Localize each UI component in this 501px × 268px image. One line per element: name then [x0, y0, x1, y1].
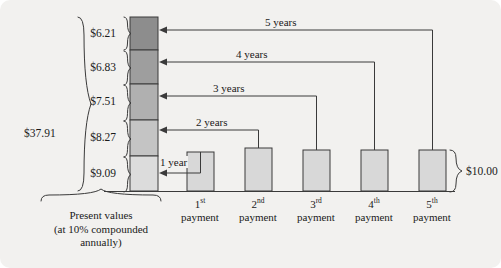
payment-ordinal-suffix-2: nd — [257, 196, 265, 205]
payment-bar-4 — [361, 150, 388, 191]
present-values-caption: Present values (at 10% compounded annual… — [1, 209, 201, 250]
payment-bar-3 — [303, 150, 330, 191]
years-label-1: 1 year — [159, 156, 188, 168]
pv-amount-5years: $6.21 — [64, 27, 116, 39]
arrowhead-1year — [159, 170, 167, 177]
arrowhead-2years — [159, 127, 167, 134]
connector-5years — [166, 30, 433, 150]
pv-segment-1year — [130, 156, 158, 191]
connector-2years — [166, 130, 259, 148]
payment-word-4: payment — [344, 211, 404, 223]
payment-ordinal-5: 5th — [402, 196, 462, 210]
caption-line-2: (at 10% compounded — [1, 223, 201, 237]
brace-ten-dollars — [450, 150, 462, 192]
years-label-4: 4 years — [236, 48, 267, 60]
connector-4years — [166, 62, 375, 150]
payment-ordinal-suffix-3: rd — [316, 196, 322, 205]
pv-segment-5years — [130, 17, 158, 50]
present-value-diagram: $37.91 $6.21 $6.83 $7.51 $8.27 $9.09 5 y… — [0, 0, 501, 268]
payment-ordinal-2: 2nd — [228, 196, 288, 210]
connector-3years — [166, 96, 317, 150]
pv-amount-1year: $9.09 — [64, 167, 116, 179]
payment-bar-5 — [419, 150, 446, 191]
payment-word-3: payment — [286, 211, 346, 223]
payment-ordinal-4: 4th — [344, 196, 404, 210]
payment-ordinal-3: 3rd — [286, 196, 346, 210]
present-value-bar — [130, 17, 158, 191]
payment-ordinal-suffix-4: th — [374, 196, 380, 205]
caption-line-3: annually) — [1, 236, 201, 250]
payment-bars — [187, 148, 446, 191]
arrowhead-3years — [159, 93, 167, 100]
payment-word-2: payment — [228, 211, 288, 223]
payment-ordinal-suffix-5: th — [432, 196, 438, 205]
arrowhead-5years — [159, 27, 167, 34]
pv-amount-3years: $7.51 — [64, 95, 116, 107]
years-label-3: 3 years — [213, 82, 244, 94]
arrowhead-4years — [159, 59, 167, 66]
payment-word-5: payment — [402, 211, 462, 223]
discount-connectors — [159, 27, 433, 177]
pv-segment-3years — [130, 84, 158, 120]
payment-ordinal-suffix-1: st — [200, 196, 205, 205]
pv-segment-2years — [130, 120, 158, 156]
payment-amount-label: $10.00 — [466, 165, 498, 177]
payment-bar-2 — [245, 148, 272, 191]
years-label-2: 2 years — [196, 116, 227, 128]
pv-amount-4years: $6.83 — [64, 61, 116, 73]
caption-line-1: Present values — [1, 209, 201, 223]
payment-ordinal-1: 1st — [170, 196, 230, 210]
diagram-stage: $37.91 $6.21 $6.83 $7.51 $8.27 $9.09 5 y… — [0, 0, 501, 268]
total-present-value-label: $37.91 — [24, 127, 56, 139]
pv-segment-4years — [130, 50, 158, 84]
years-label-5: 5 years — [265, 16, 296, 28]
pv-amount-2years: $8.27 — [64, 131, 116, 143]
